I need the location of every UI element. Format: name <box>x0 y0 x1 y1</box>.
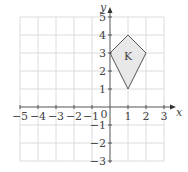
y-axis-arrow-icon <box>108 7 113 13</box>
svg-text:−2: −2 <box>66 110 82 123</box>
coordinate-plane: K −5 −4 −3 −2 −1 0 1 2 3 x <box>0 0 188 172</box>
svg-text:−3: −3 <box>48 110 64 123</box>
svg-text:1: 1 <box>99 83 106 96</box>
svg-text:4: 4 <box>99 29 106 42</box>
svg-text:3: 3 <box>99 47 106 60</box>
svg-text:−3: −3 <box>90 155 106 168</box>
y-axis-label: y <box>99 1 107 14</box>
svg-text:−1: −1 <box>90 119 106 132</box>
svg-text:2: 2 <box>99 65 106 78</box>
x-axis-label: x <box>176 106 183 119</box>
svg-text:2: 2 <box>143 110 150 123</box>
svg-text:−4: −4 <box>30 110 46 123</box>
svg-text:1: 1 <box>125 110 132 123</box>
svg-text:3: 3 <box>161 110 168 123</box>
svg-text:−2: −2 <box>90 137 106 150</box>
svg-text:−5: −5 <box>12 110 28 123</box>
shape-label-k: K <box>124 50 133 63</box>
